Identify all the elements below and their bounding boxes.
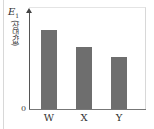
x-tick-w: W (41, 112, 57, 123)
x-tick-y: Y (111, 112, 127, 123)
left-border-line (3, 0, 4, 129)
y-axis-unit: (상댓값) (9, 20, 20, 45)
bar-y (111, 57, 127, 109)
y-axis (29, 10, 30, 110)
bar-x (76, 47, 92, 109)
y-axis-subscript: 1 (15, 12, 19, 19)
y-axis-arrow-icon (26, 8, 32, 13)
y-axis-label: E1 (8, 6, 19, 19)
y-origin-label: 0 (21, 104, 26, 113)
x-tick-x: X (76, 112, 92, 123)
x-axis (29, 109, 146, 110)
bar-w (41, 30, 57, 109)
